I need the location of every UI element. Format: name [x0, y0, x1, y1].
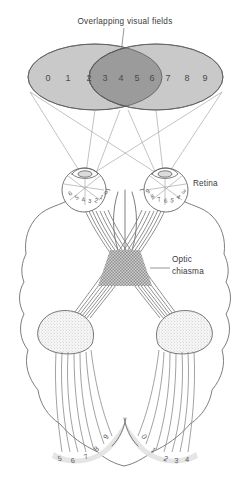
field-number: 6	[149, 73, 154, 83]
optic-chiasma-label-line1: Optic	[172, 255, 192, 264]
figure-root: Overlapping visual fields 0 1 2 3 4 5 6 …	[0, 0, 251, 484]
field-number: 4	[118, 73, 123, 83]
retina-label: Retina	[193, 179, 218, 188]
page-title: Overlapping visual fields	[78, 17, 173, 26]
left-visual-cortex	[52, 420, 126, 463]
right-eye: 9 8 7 6 5 4 3	[144, 168, 188, 212]
field-number: 3	[102, 73, 107, 83]
field-number: 7	[165, 73, 170, 83]
field-number: 2	[86, 73, 91, 83]
right-lateral-geniculate-body	[157, 311, 213, 354]
left-lateral-geniculate-body	[38, 311, 94, 354]
visual-pathway-diagram: Overlapping visual fields 0 1 2 3 4 5 6 …	[0, 0, 251, 484]
cortex-number: 4	[185, 455, 189, 464]
optic-radiations	[55, 350, 194, 452]
field-number: 1	[65, 73, 70, 83]
optic-chiasma-label-line2: chiasma	[172, 267, 204, 276]
retina-number: 3	[88, 197, 92, 204]
field-number: 5	[134, 73, 139, 83]
optic-chiasma-annotation: Optic chiasma	[150, 255, 204, 276]
cortex-number: 3	[174, 456, 179, 465]
cortex-number: 5	[57, 454, 62, 463]
field-number: 8	[184, 73, 189, 83]
field-number: 9	[202, 73, 207, 83]
optic-chiasma-crossing	[98, 250, 152, 286]
left-eye: 6 5 4 3 2 1 0	[62, 168, 110, 212]
left-lens	[78, 171, 92, 177]
visual-field-group: 0 1 2 3 4 5 6 7 8 9	[28, 44, 223, 110]
cortex-number: 6	[70, 456, 75, 465]
field-number: 0	[45, 73, 50, 83]
right-lens	[158, 171, 172, 177]
